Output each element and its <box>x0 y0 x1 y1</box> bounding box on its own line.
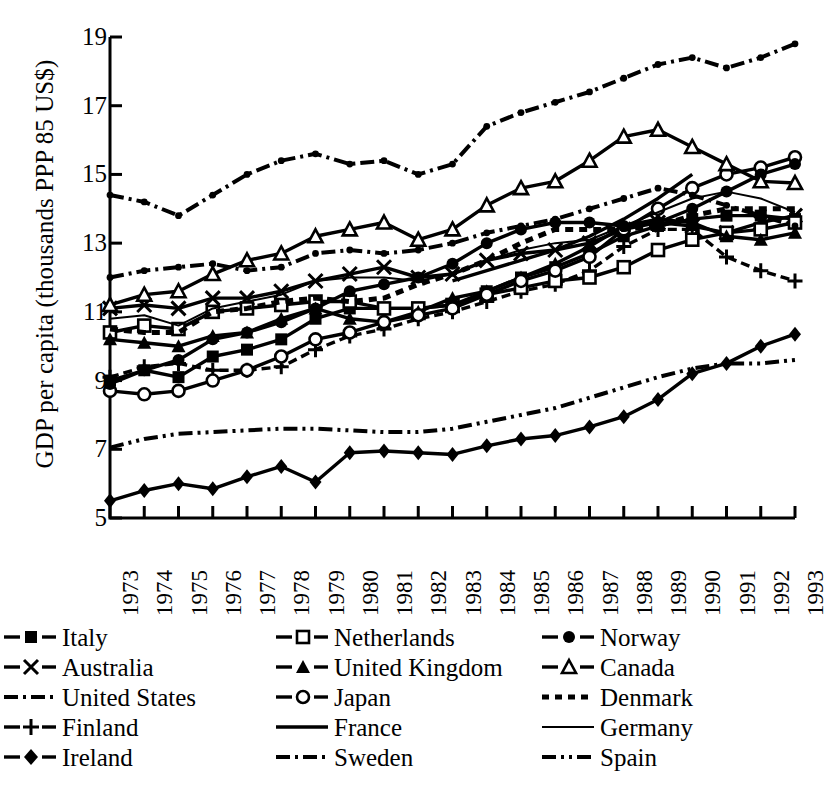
data-point-marker <box>515 431 527 446</box>
open-triangle-key <box>538 656 600 678</box>
dash-dot-dot-key <box>538 746 600 768</box>
data-point-marker <box>549 217 561 229</box>
data-point-marker <box>381 157 388 164</box>
legend-item-label: Sweden <box>334 745 413 770</box>
legend-item-france[interactable]: France <box>268 712 536 742</box>
data-point-marker <box>175 264 182 271</box>
plus-key <box>0 716 62 738</box>
data-point-marker <box>275 333 287 345</box>
cross-x-key <box>0 656 62 678</box>
x-tick-label: 1980 <box>359 570 382 616</box>
data-point-marker <box>757 212 764 219</box>
legend-item-norway[interactable]: Norway <box>536 622 811 652</box>
data-point-marker <box>584 217 596 229</box>
data-point-marker <box>206 267 220 280</box>
data-point-marker <box>138 388 150 400</box>
data-point-marker <box>584 419 596 434</box>
data-point-marker <box>584 272 596 284</box>
data-point-marker <box>788 273 803 288</box>
data-point-marker <box>241 326 253 338</box>
filled-triangle-key <box>272 656 334 678</box>
legend-item-canada[interactable]: Canada <box>536 652 811 682</box>
data-point-marker <box>107 192 114 199</box>
x-tick-label: 1981 <box>393 570 416 616</box>
filled-circle-key <box>538 626 600 648</box>
open-circle-key <box>272 686 334 708</box>
legend-item-label: Germany <box>600 715 693 740</box>
data-point-marker <box>651 123 665 136</box>
legend-item-united-states[interactable]: United States <box>0 682 268 712</box>
data-point-marker <box>274 246 288 259</box>
data-point-marker <box>549 428 561 443</box>
x-tick-label: 1988 <box>633 570 656 616</box>
dash-dot-key <box>0 686 62 708</box>
data-point-marker <box>137 288 151 301</box>
legend-item-japan[interactable]: Japan <box>268 682 536 712</box>
data-point-marker <box>175 212 182 219</box>
data-point-marker <box>723 65 730 72</box>
data-point-marker <box>789 327 801 342</box>
data-point-marker <box>310 313 322 325</box>
data-point-marker <box>241 344 253 356</box>
data-point-marker <box>278 157 285 164</box>
legend-item-spain[interactable]: Spain <box>536 742 811 772</box>
data-point-marker <box>412 309 424 321</box>
data-point-marker <box>173 476 185 491</box>
data-point-marker <box>618 261 630 273</box>
data-point-marker <box>618 409 630 424</box>
legend-item-sweden[interactable]: Sweden <box>268 742 536 772</box>
data-point-marker <box>275 351 287 363</box>
data-point-marker <box>515 223 527 235</box>
data-point-marker <box>240 253 254 266</box>
legend-item-label: Italy <box>62 625 108 650</box>
data-point-marker <box>141 267 148 274</box>
data-point-marker <box>378 302 390 314</box>
legend-item-label: Ireland <box>62 745 133 770</box>
legend-item-finland[interactable]: Finland <box>0 712 268 742</box>
legend-item-australia[interactable]: Australia <box>0 652 268 682</box>
legend-item-label: Spain <box>600 745 657 770</box>
data-point-marker <box>655 185 662 192</box>
data-point-marker <box>309 229 323 242</box>
dotted-key <box>538 686 600 708</box>
data-point-marker <box>138 364 150 376</box>
data-point-marker <box>310 302 322 314</box>
data-point-marker <box>548 174 562 187</box>
dash-dot-key <box>272 746 334 768</box>
solid-line-key <box>272 716 334 738</box>
data-point-marker <box>753 263 768 278</box>
legend-item-denmark[interactable]: Denmark <box>536 682 811 712</box>
data-point-marker <box>514 181 528 194</box>
data-point-marker <box>755 339 767 354</box>
data-point-marker <box>207 375 219 387</box>
data-point-marker <box>378 444 390 459</box>
data-point-marker <box>789 158 801 170</box>
data-point-marker <box>447 302 459 314</box>
plot-area: GDP per capita (thousands PPP 85 US$) 19… <box>0 0 811 620</box>
data-point-marker <box>411 233 425 246</box>
data-point-marker <box>172 284 186 297</box>
legend-item-label: Japan <box>334 685 391 710</box>
data-point-marker <box>686 234 698 246</box>
x-tick-label: 1977 <box>256 570 279 616</box>
data-point-marker <box>278 264 285 271</box>
legend-item-united-kingdom[interactable]: United Kingdom <box>268 652 536 682</box>
legend-item-netherlands[interactable]: Netherlands <box>268 622 536 652</box>
data-point-marker <box>481 237 493 249</box>
legend-item-italy[interactable]: Italy <box>0 622 268 652</box>
data-point-marker <box>241 469 253 484</box>
data-point-marker <box>141 199 148 206</box>
data-point-marker <box>720 157 734 170</box>
data-point-marker <box>107 274 114 281</box>
data-point-marker <box>518 109 525 116</box>
legend-item-ireland[interactable]: Ireland <box>0 742 268 772</box>
legend-item-germany[interactable]: Germany <box>536 712 811 742</box>
data-point-marker <box>617 130 631 143</box>
x-tick-label: 1979 <box>325 570 348 616</box>
data-point-marker <box>138 483 150 498</box>
data-point-marker <box>586 205 593 212</box>
data-point-marker <box>173 385 185 397</box>
data-point-marker <box>312 150 319 157</box>
data-point-marker <box>344 326 356 338</box>
